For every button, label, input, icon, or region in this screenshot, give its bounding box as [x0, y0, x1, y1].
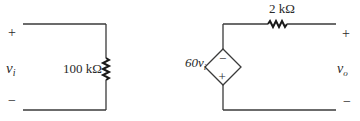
resistor-100k-icon	[103, 58, 109, 80]
resistor-100k-label: 100 kΩ	[63, 61, 102, 76]
output-plus-terminal: +	[342, 26, 350, 41]
dependent-source-gain-label: 60vi	[185, 55, 207, 72]
output-circuit: − + 2 kΩ 60vi + − vo	[185, 1, 351, 110]
resistor-2k-icon	[268, 21, 287, 27]
source-polarity-plus: +	[219, 69, 226, 84]
input-plus-terminal: +	[8, 25, 16, 40]
output-minus-terminal: −	[343, 94, 351, 109]
circuit-diagram: + − vi 100 kΩ − + 2 kΩ 60vi + − vo	[0, 0, 360, 121]
input-minus-terminal: −	[8, 93, 16, 108]
source-polarity-minus: −	[219, 51, 226, 66]
input-voltage-label: vi	[6, 60, 16, 78]
output-voltage-label: vo	[337, 61, 348, 78]
input-circuit: + − vi 100 kΩ	[6, 24, 109, 110]
resistor-2k-label: 2 kΩ	[269, 1, 295, 16]
